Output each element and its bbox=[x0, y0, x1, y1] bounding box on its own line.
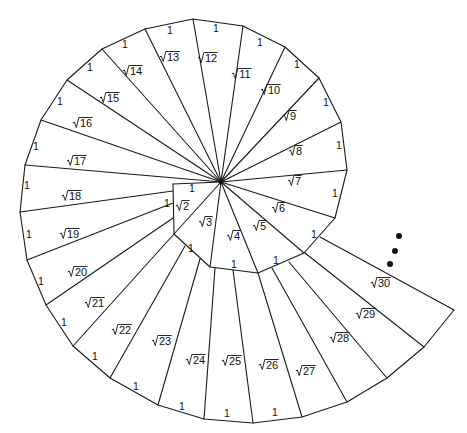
hypotenuse-sqrt-30 bbox=[320, 237, 454, 310]
radical-label-sqrt-25: 25 bbox=[222, 355, 242, 367]
unit-label: 1 bbox=[61, 316, 67, 328]
svg-text:16: 16 bbox=[80, 117, 92, 129]
hypotenuse-sqrt-19 bbox=[27, 203, 173, 260]
spiral-center-point bbox=[219, 180, 224, 185]
svg-text:10: 10 bbox=[268, 84, 280, 96]
svg-text:7: 7 bbox=[295, 175, 301, 187]
center-dot bbox=[219, 180, 224, 185]
unit-label: 1 bbox=[213, 22, 219, 34]
unit-label: 1 bbox=[336, 139, 342, 151]
radical-label-sqrt-2: 2 bbox=[176, 200, 190, 212]
unit-label: 1 bbox=[133, 380, 139, 392]
radical-label-sqrt-7: 7 bbox=[288, 175, 302, 187]
svg-text:14: 14 bbox=[130, 65, 142, 77]
radical-label-sqrt-30: 30 bbox=[371, 277, 391, 289]
radical-label-sqrt-20: 20 bbox=[68, 266, 88, 278]
radical-label-sqrt-23: 23 bbox=[152, 335, 172, 347]
svg-text:17: 17 bbox=[74, 155, 86, 167]
radical-label-sqrt-11: 11 bbox=[232, 68, 252, 80]
unit-label: 1 bbox=[323, 96, 329, 108]
svg-text:30: 30 bbox=[378, 277, 390, 289]
radical-label-sqrt-12: 12 bbox=[198, 52, 218, 64]
radical-label-sqrt-18: 18 bbox=[62, 190, 82, 202]
radical-label-sqrt-16: 16 bbox=[73, 117, 93, 129]
radical-label-sqrt-22: 22 bbox=[112, 324, 132, 336]
hypotenuse-sqrt-5 bbox=[221, 182, 304, 253]
unit-label: 1 bbox=[92, 350, 98, 362]
svg-text:15: 15 bbox=[107, 92, 119, 104]
radical-label-sqrt-26: 26 bbox=[259, 359, 279, 371]
radical-label-sqrt-10: 10 bbox=[261, 84, 281, 96]
svg-text:11: 11 bbox=[239, 68, 250, 80]
hypotenuse-sqrt-24 bbox=[204, 268, 215, 419]
radical-label-sqrt-9: 9 bbox=[283, 110, 297, 122]
unit-label: 1 bbox=[38, 275, 44, 287]
unit-label: 1 bbox=[189, 182, 195, 194]
hypotenuse-sqrt-8 bbox=[221, 122, 341, 182]
unit-label: 1 bbox=[257, 36, 263, 48]
svg-text:20: 20 bbox=[75, 266, 87, 278]
svg-text:29: 29 bbox=[363, 308, 375, 320]
unit-label: 1 bbox=[167, 24, 173, 36]
radical-labels: 2345678910111213141516171819202122232425… bbox=[60, 51, 391, 377]
svg-text:24: 24 bbox=[193, 354, 205, 366]
radical-label-sqrt-29: 29 bbox=[356, 308, 376, 320]
unit-label: 1 bbox=[273, 254, 279, 266]
ellipsis-dot bbox=[396, 233, 402, 239]
unit-label: 1 bbox=[272, 406, 278, 418]
radical-label-sqrt-27: 27 bbox=[296, 365, 316, 377]
svg-text:12: 12 bbox=[205, 52, 217, 64]
radical-label-sqrt-13: 13 bbox=[160, 51, 180, 63]
hypotenuse-sqrt-23 bbox=[158, 259, 200, 405]
ellipsis-dot bbox=[392, 248, 398, 254]
svg-text:8: 8 bbox=[296, 145, 302, 157]
unit-label: 1 bbox=[57, 95, 63, 107]
hypotenuse-sqrt-26 bbox=[258, 273, 302, 417]
radical-label-sqrt-14: 14 bbox=[123, 65, 143, 77]
radical-label-sqrt-5: 5 bbox=[253, 220, 267, 232]
svg-text:6: 6 bbox=[279, 202, 285, 214]
unit-label: 1 bbox=[164, 197, 170, 209]
radical-label-sqrt-24: 24 bbox=[186, 354, 206, 366]
svg-text:21: 21 bbox=[92, 297, 104, 309]
svg-text:28: 28 bbox=[337, 332, 349, 344]
svg-text:18: 18 bbox=[69, 190, 81, 202]
hypotenuse-sqrt-4 bbox=[221, 182, 258, 273]
ellipsis-dot bbox=[387, 261, 393, 267]
unit-label: 1 bbox=[188, 242, 194, 254]
unit-length-labels: 11111111111111111111111111 bbox=[24, 22, 342, 419]
unit-label: 1 bbox=[122, 38, 128, 50]
unit-label: 1 bbox=[294, 58, 300, 70]
unit-edge bbox=[173, 182, 221, 184]
svg-text:26: 26 bbox=[266, 359, 278, 371]
radical-label-sqrt-4: 4 bbox=[227, 230, 241, 242]
hypotenuse-sqrt-22 bbox=[110, 246, 185, 378]
hypotenuse-sqrt-7 bbox=[221, 170, 347, 182]
radical-label-sqrt-3: 3 bbox=[199, 216, 213, 228]
unit-label: 1 bbox=[26, 228, 32, 240]
svg-text:25: 25 bbox=[229, 355, 241, 367]
unit-label: 1 bbox=[179, 400, 185, 412]
hypotenuse-sqrt-2 bbox=[174, 182, 221, 234]
svg-text:2: 2 bbox=[183, 200, 189, 212]
svg-text:3: 3 bbox=[206, 216, 212, 228]
hypotenuse-sqrt-27 bbox=[272, 268, 347, 402]
unit-label: 1 bbox=[311, 228, 317, 240]
radical-label-sqrt-6: 6 bbox=[272, 202, 286, 214]
hypotenuse-sqrt-18 bbox=[20, 191, 173, 212]
unit-label: 1 bbox=[87, 61, 93, 73]
unit-label: 1 bbox=[332, 187, 338, 199]
radical-label-sqrt-15: 15 bbox=[100, 92, 120, 104]
radical-label-sqrt-28: 28 bbox=[330, 332, 350, 344]
unit-label: 1 bbox=[224, 407, 230, 419]
hypotenuse-sqrt-25 bbox=[233, 270, 253, 423]
unit-label: 1 bbox=[24, 179, 30, 191]
hypotenuse-sqrt-17 bbox=[25, 165, 221, 182]
svg-text:23: 23 bbox=[159, 335, 171, 347]
spiral-of-theodorus-diagram: 2345678910111213141516171819202122232425… bbox=[0, 0, 467, 433]
hypotenuse-sqrt-12 bbox=[193, 19, 221, 182]
unit-label: 1 bbox=[231, 258, 237, 270]
svg-text:9: 9 bbox=[290, 110, 296, 122]
svg-text:13: 13 bbox=[167, 51, 179, 63]
unit-label: 1 bbox=[33, 140, 39, 152]
